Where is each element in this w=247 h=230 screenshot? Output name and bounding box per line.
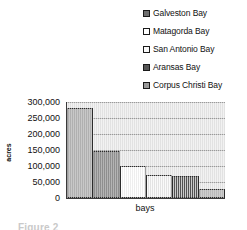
- legend-swatch-icon: [143, 28, 150, 35]
- figure-container: Galveston Bay Matagorda Bay San Antonio …: [0, 0, 247, 230]
- legend-swatch-icon: [143, 64, 150, 71]
- y-axis-tick-label: 0: [6, 194, 60, 203]
- legend-item-aransas-bay: Aransas Bay: [143, 58, 247, 76]
- chart-plot-area: acres 050,000100,000150,000200,000250,00…: [0, 97, 247, 212]
- legend-item-matagorda-bay: Matagorda Bay: [143, 22, 247, 40]
- bar-slot: [67, 102, 93, 198]
- legend-item-label: San Antonio Bay: [153, 45, 214, 54]
- legend-item-galveston-bay: Galveston Bay: [143, 4, 247, 22]
- y-axis-tick-labels: 050,000100,000150,000200,000250,000300,0…: [6, 97, 60, 212]
- plot-axes: [66, 102, 225, 199]
- figure-caption: Figure 2: [18, 222, 59, 230]
- bar: [120, 166, 146, 198]
- legend-item-label: Galveston Bay: [153, 9, 207, 18]
- chart-legend: Galveston Bay Matagorda Bay San Antonio …: [143, 4, 247, 94]
- bar: [199, 189, 225, 198]
- bar-slot: [199, 102, 225, 198]
- bar-slot: [146, 102, 172, 198]
- y-axis-tick-label: 200,000: [6, 130, 60, 139]
- bar-slot: [172, 102, 198, 198]
- legend-item-san-antonio-bay: San Antonio Bay: [143, 40, 247, 58]
- y-axis-tick-label: 150,000: [6, 146, 60, 155]
- y-axis-tick-label: 50,000: [6, 178, 60, 187]
- bar: [172, 176, 198, 198]
- legend-item-corpus-christi-bay: Corpus Christi Bay: [143, 76, 247, 94]
- bar-slot: [120, 102, 146, 198]
- x-axis-title: bays: [66, 203, 224, 213]
- bar: [67, 108, 93, 198]
- bar: [93, 151, 119, 198]
- bar-series: [67, 102, 225, 198]
- legend-swatch-icon: [143, 46, 150, 53]
- bar: [146, 175, 172, 198]
- legend-item-label: Aransas Bay: [153, 63, 200, 72]
- y-axis-tick-label: 100,000: [6, 162, 60, 171]
- y-axis-tick-label: 250,000: [6, 114, 60, 123]
- legend-swatch-icon: [143, 10, 150, 17]
- legend-item-label: Matagorda Bay: [153, 27, 209, 36]
- y-axis-tick-label: 300,000: [6, 98, 60, 107]
- bar-slot: [93, 102, 119, 198]
- legend-swatch-icon: [143, 82, 150, 89]
- legend-item-label: Corpus Christi Bay: [153, 81, 222, 90]
